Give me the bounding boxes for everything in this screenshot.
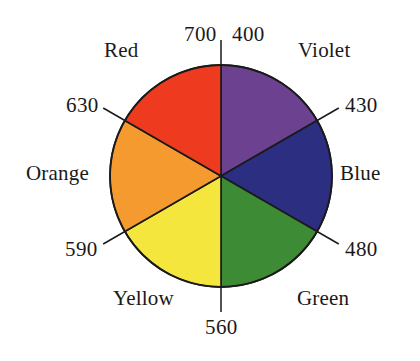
wavelength-label-480: 480: [345, 239, 378, 260]
wavelength-label-400: 400: [232, 24, 265, 45]
sector-label-orange: Orange: [26, 163, 89, 184]
sector-label-red: Red: [104, 40, 138, 61]
tick-mark-480: [317, 232, 339, 245]
wavelength-label-700: 700: [184, 24, 217, 45]
wavelength-label-630: 630: [66, 95, 99, 116]
tick-mark-590: [103, 232, 125, 245]
sector-label-violet: Violet: [298, 40, 350, 61]
wavelength-label-430: 430: [345, 95, 378, 116]
sector-label-green: Green: [297, 288, 349, 309]
sector-label-yellow: Yellow: [113, 288, 174, 309]
wavelength-label-590: 590: [65, 239, 98, 260]
sector-label-blue: Blue: [340, 163, 380, 184]
tick-mark-630: [103, 108, 125, 121]
wavelength-label-560: 560: [205, 317, 238, 338]
color-wheel-figure: Red Violet Blue Green Yellow Orange 700 …: [0, 0, 420, 361]
tick-mark-430: [317, 108, 339, 121]
